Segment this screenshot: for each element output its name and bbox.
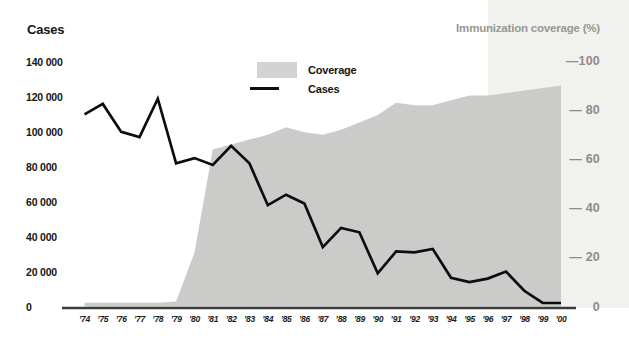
left-axis-tick: 0 [26, 302, 78, 312]
left-axis-tick: 40 000 [26, 232, 78, 242]
right-axis-title: Immunization coverage (%) [456, 22, 600, 34]
legend-cases-line-swatch [250, 87, 279, 90]
x-axis-year-label: ’00 [548, 314, 574, 324]
legend-label-coverage: Coverage [308, 64, 357, 76]
left-axis-tick: 120 000 [26, 92, 78, 102]
left-axis-tick: 60 000 [26, 197, 78, 207]
left-axis-tick: 20 000 [26, 267, 78, 277]
left-axis-tick: 80 000 [26, 162, 78, 172]
right-axis-tick: — 40 [535, 202, 600, 214]
plot-svg [0, 0, 629, 346]
left-axis-tick: 140 000 [26, 57, 78, 67]
legend-label-cases: Cases [308, 83, 339, 95]
chart-canvas: Cases Immunization coverage (%) 140 0001… [0, 0, 629, 346]
right-axis-tick: — 20 [535, 251, 600, 263]
right-axis-tick: 0 [535, 301, 600, 313]
left-axis-tick: 100 000 [26, 127, 78, 137]
right-axis-tick: — 80 [535, 104, 600, 116]
legend-coverage-swatch [257, 62, 297, 78]
right-axis-tick: — 60 [535, 153, 600, 165]
left-axis-title: Cases [27, 22, 64, 37]
right-axis-tick: —100 [535, 55, 600, 67]
coverage-area-series [85, 86, 562, 307]
